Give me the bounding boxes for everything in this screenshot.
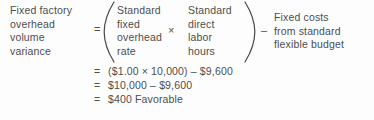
standard-direct-labor-hours-term: Standard direct labor hours [188, 4, 232, 58]
standard-fixed-overhead-rate-term: Standard fixed overhead rate [117, 4, 162, 58]
minus-sign: – [261, 24, 267, 36]
calculation-equals-sign: = [94, 79, 108, 92]
fixed-costs-from-standard-flexible-budget-term: Fixed costs from standard flexible budge… [274, 11, 344, 52]
calculation-row: =$10,000 – $9,600 [94, 79, 192, 92]
calculation-row: =($1.00 × 10,000) – $9,600 [94, 65, 233, 78]
calculation-expression: $10,000 – $9,600 [108, 79, 192, 91]
variance-label-line: overhead [10, 18, 72, 32]
close-parenthesis-icon [242, 0, 258, 64]
factor-one-line: overhead [117, 31, 162, 45]
factor-one-line: fixed [117, 18, 162, 32]
factor-two-line: hours [188, 45, 232, 59]
factor-one-line: Standard [117, 4, 162, 18]
right-term-line: Fixed costs [274, 11, 344, 25]
calculation-equals-sign: = [94, 93, 108, 106]
equals-sign: = [94, 23, 100, 35]
variance-label-line: volume [10, 31, 72, 45]
calculation-expression: $400 Favorable [108, 93, 183, 105]
variance-label-line: Fixed factory [10, 4, 72, 18]
factor-one-line: rate [117, 45, 162, 59]
variance-label: Fixed factory overhead volume variance [10, 4, 72, 58]
factor-two-line: direct [188, 18, 232, 32]
calculation-expression: ($1.00 × 10,000) – $9,600 [108, 65, 233, 77]
calculation-equals-sign: = [94, 65, 108, 78]
calculation-row: =$400 Favorable [94, 93, 183, 106]
multiplication-sign: × [168, 24, 174, 36]
right-term-line: from standard [274, 25, 344, 39]
factor-two-line: labor [188, 31, 232, 45]
variance-label-line: variance [10, 45, 72, 59]
open-parenthesis-icon [101, 0, 117, 64]
factor-two-line: Standard [188, 4, 232, 18]
right-term-line: flexible budget [274, 38, 344, 52]
fixed-overhead-volume-variance-formula: Fixed factory overhead volume variance =… [0, 0, 374, 120]
